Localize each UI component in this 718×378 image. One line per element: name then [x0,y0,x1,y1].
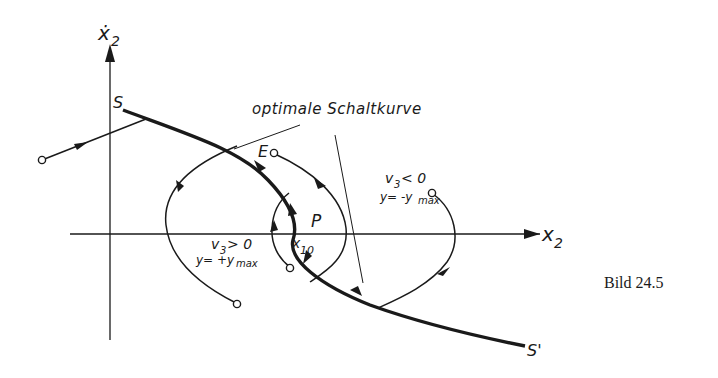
svg-text:max: max [418,195,440,206]
svg-text:v: v [211,236,220,252]
arrow-icon [288,203,297,216]
trajectory-large-loop [166,146,241,308]
trajectory-from-E [270,149,346,282]
arrow-icon [270,220,278,232]
label-E: E [258,142,269,161]
svg-text:> 0: > 0 [227,236,252,252]
region-label-positive: v 3 > 0 y= +y max [195,236,258,269]
leader-line [335,135,363,283]
optimal-switching-curve [123,110,525,346]
x-axis-label-sub: 2 [554,235,563,251]
point-E [270,149,277,156]
y-axis-label: ẋ [97,21,110,45]
arrow-icon [74,142,88,150]
trajectory-left [38,119,146,164]
y-axis-label-sub: 2 [111,33,120,49]
axes [70,44,540,340]
svg-text:y= -y: y= -y [379,190,413,204]
label-S-prime: S' [527,341,542,360]
arrow-icon [350,286,362,296]
phase-plane-diagram: ẋ 2 x 2 optimale Schaltkurve [0,0,718,378]
start-point [38,156,45,163]
x-axis-arrow-icon [524,229,540,239]
svg-text:v: v [385,170,394,186]
svg-text:y= +y: y= +y [195,253,235,267]
annotation-title: optimale Schaltkurve [252,100,422,118]
svg-text:< 0: < 0 [401,170,426,186]
region-label-negative: v 3 < 0 y= -y max [379,170,440,206]
label-P: P [311,211,322,231]
trajectory-right [378,189,455,308]
label-S: S [113,93,123,112]
figure-caption: Bild 24.5 [604,274,664,291]
start-point [233,300,240,307]
svg-text:max: max [236,258,258,269]
start-point [286,264,293,271]
x-axis-label: x [541,222,554,246]
svg-text:10: 10 [300,244,314,257]
svg-text:3: 3 [394,179,400,190]
